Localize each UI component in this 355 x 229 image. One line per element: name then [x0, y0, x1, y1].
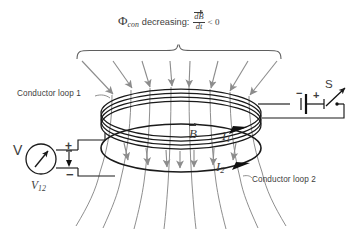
- conductor-loop-1-label: Conductor loop 1: [17, 90, 81, 98]
- flux-symbol: Φ: [118, 13, 128, 28]
- db-dt-fraction: dB dt: [193, 13, 204, 32]
- flux-verb: decreasing:: [142, 17, 190, 27]
- conductor-loop-2-label: Conductor loop 2: [252, 176, 316, 184]
- inequality-term: < 0: [208, 17, 220, 27]
- b-field-label: B: [189, 127, 197, 140]
- current-2-label: I2: [216, 161, 224, 175]
- flux-brace: [77, 45, 281, 60]
- loop2-leader-line: [243, 176, 252, 178]
- loop1-leader-line: [95, 95, 110, 98]
- polarity-arrow: [66, 151, 72, 167]
- current-2-subscript: 2: [220, 165, 224, 175]
- battery-negative-terminal: −: [296, 88, 302, 99]
- voltmeter-positive-terminal: +: [65, 140, 72, 152]
- current-1-subscript: 1: [226, 134, 230, 144]
- fraction-numerator: dB: [193, 13, 204, 23]
- conductor-loop-1-coil: [101, 89, 261, 149]
- battery-positive-terminal: +: [313, 90, 319, 101]
- voltage-reading-label: V12: [31, 180, 46, 193]
- switch-label: S: [325, 79, 333, 91]
- flux-formula-caption: Φcondecreasing: dB dt < 0: [118, 13, 219, 32]
- switch-symbol[interactable]: [317, 88, 345, 109]
- magnetic-field-arrows-top: [82, 61, 277, 95]
- voltmeter-symbol: [26, 144, 56, 174]
- voltmeter-negative-terminal: −: [66, 168, 74, 181]
- voltage-symbol: V: [31, 179, 38, 191]
- flux-subscript: con: [128, 20, 139, 29]
- fraction-denominator: dt: [193, 23, 204, 32]
- b-field-symbol: B: [189, 127, 197, 140]
- current-1-label: I1: [222, 130, 230, 144]
- induction-diagram: Φcondecreasing: dB dt < 0 Conductor loop…: [0, 0, 355, 229]
- voltage-subscript: 12: [38, 184, 46, 193]
- db-term: dB: [194, 13, 203, 22]
- voltmeter-label: V: [13, 143, 22, 157]
- diagram-canvas: [0, 0, 355, 229]
- current-2-arrow: [232, 162, 250, 170]
